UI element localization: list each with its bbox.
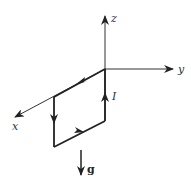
diagram-svg: z y x I (0, 0, 191, 185)
arrow-top-icon (75, 77, 88, 85)
loop-direction-arrows (50, 77, 109, 133)
y-axis: y (105, 63, 185, 76)
current-label: I (111, 90, 117, 103)
z-axis-label: z (110, 12, 117, 25)
x-axis: x (12, 69, 105, 133)
y-axis-label: y (177, 63, 185, 76)
loop-edge-bottom (54, 121, 105, 147)
arrow-bottom-icon (74, 127, 84, 133)
diagram-canvas: z y x I (0, 0, 191, 185)
x-axis-label: x (12, 120, 19, 133)
current-loop (54, 69, 105, 147)
gravity-label: g (87, 163, 95, 176)
z-axis: z (105, 12, 117, 120)
gravity-vector: g (81, 150, 95, 176)
